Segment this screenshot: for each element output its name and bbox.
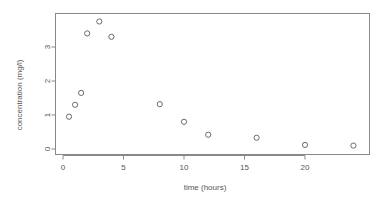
y-axis-title: concentration (mg/l) [15, 59, 24, 130]
x-tick-label: 5 [121, 163, 126, 172]
plot-canvas: 05101520 0123 time (hours) concentration… [0, 0, 384, 201]
x-tick-label: 0 [61, 163, 66, 172]
y-tick-label: 1 [43, 112, 52, 117]
chart-screenshot: 05101520 0123 time (hours) concentration… [0, 0, 384, 201]
plot-background [0, 0, 384, 201]
scatter-plot: 05101520 0123 time (hours) concentration… [0, 0, 384, 201]
y-tick-label: 2 [43, 78, 52, 83]
x-tick-label: 15 [240, 163, 249, 172]
y-tick-label: 3 [43, 44, 52, 49]
x-tick-label: 20 [301, 163, 310, 172]
y-tick-label: 0 [43, 146, 52, 151]
x-axis-title: time (hours) [184, 183, 227, 192]
x-tick-label: 10 [180, 163, 189, 172]
